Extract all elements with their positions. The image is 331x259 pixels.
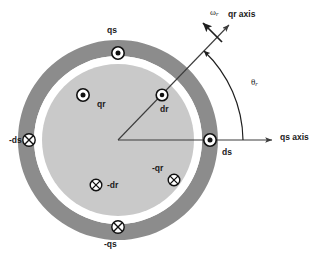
label-minus-qr: -qr — [152, 164, 163, 173]
label-qs: qs — [107, 26, 117, 35]
omega-r-arrow — [203, 23, 222, 42]
winding-marker-minus-qs — [112, 221, 124, 233]
label-qs-axis: qs axis — [280, 133, 309, 142]
diagram-canvas — [0, 0, 331, 259]
label-minus-qs: -qs — [104, 240, 117, 249]
label-omega-r: ωr — [210, 8, 218, 18]
label-qr-axis: qr axis — [228, 10, 255, 19]
winding-marker-minus-qr — [168, 174, 180, 186]
label-ds: ds — [222, 148, 232, 157]
label-minus-dr: -dr — [107, 181, 118, 190]
winding-marker-qs — [112, 47, 124, 59]
theta-subscript: r — [255, 80, 258, 87]
winding-marker-minus-ds — [23, 134, 35, 146]
machine-cross-section-diagram: qs -qs ds -ds qr -qr dr -dr qs axis qr a… — [0, 0, 331, 259]
winding-marker-minus-dr — [90, 179, 102, 191]
label-dr: dr — [160, 105, 169, 114]
omega-subscript: r — [216, 10, 219, 17]
label-minus-ds: -ds — [9, 136, 22, 145]
winding-marker-dr — [156, 89, 168, 101]
winding-marker-ds — [204, 134, 216, 146]
label-qr: qr — [97, 100, 106, 109]
label-theta-r: θr — [251, 78, 258, 88]
winding-marker-qr — [77, 89, 89, 101]
